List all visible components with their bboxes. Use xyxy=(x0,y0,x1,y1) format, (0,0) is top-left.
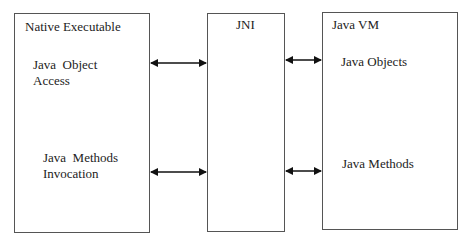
connector-arrows xyxy=(0,0,468,244)
